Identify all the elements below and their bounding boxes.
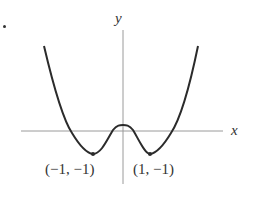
- left-min-label: (−1, −1): [45, 162, 94, 177]
- curve: [44, 46, 198, 154]
- min-point-left: [91, 152, 95, 156]
- x-axis-label: x: [231, 123, 238, 138]
- y-axis-label: y: [115, 11, 122, 26]
- chart-canvas: [0, 0, 256, 203]
- min-point-right: [148, 152, 152, 156]
- right-min-label: (1, −1): [133, 162, 174, 177]
